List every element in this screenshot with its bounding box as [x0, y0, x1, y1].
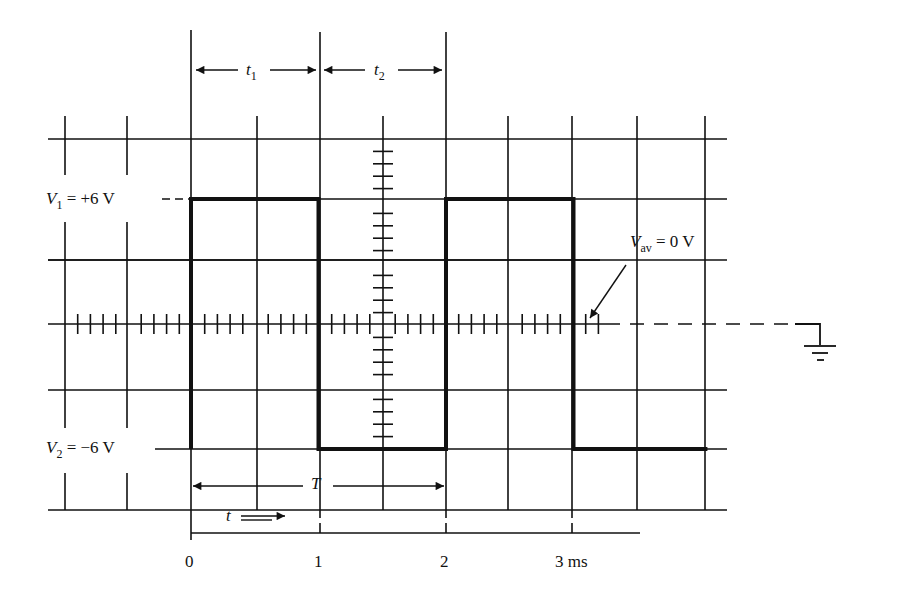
v2-symbol: V [46, 438, 56, 457]
x-tick-label-0: 0 [185, 552, 194, 572]
v1-value: = +6 V [62, 189, 114, 208]
vav-value: = 0 V [652, 232, 695, 251]
t1-label: t1 [246, 60, 257, 80]
square-wave-chart [0, 0, 900, 613]
v2-label: V2 = −6 V [46, 438, 115, 458]
axis-minor-ticks [78, 151, 599, 436]
dimension-arrows [193, 70, 626, 520]
period-T-label: T [311, 474, 320, 494]
grid [48, 30, 795, 540]
v1-symbol: V [46, 189, 56, 208]
v1-subscript: 1 [56, 198, 62, 212]
v2-value: = −6 V [62, 438, 114, 457]
time-t-label: t [226, 506, 231, 526]
vav-subscript: av [640, 241, 651, 255]
t2-subscript: 2 [379, 69, 385, 83]
t2-label: t2 [374, 60, 385, 80]
v1-label: V1 = +6 V [46, 189, 115, 209]
x-tick-label-3: 3 ms [555, 552, 588, 572]
vav-label: Vav = 0 V [630, 232, 695, 252]
x-tick-label-1: 1 [314, 552, 323, 572]
vav-symbol: V [630, 232, 640, 251]
t1-subscript: 1 [251, 69, 257, 83]
v2-subscript: 2 [56, 447, 62, 461]
ground-icon [795, 324, 836, 360]
x-tick-label-2: 2 [440, 552, 449, 572]
